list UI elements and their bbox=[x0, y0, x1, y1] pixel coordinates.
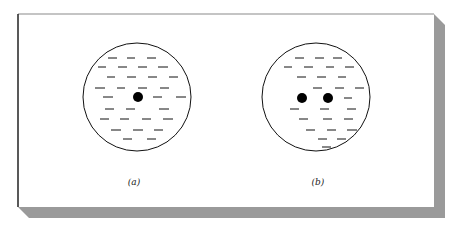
panel-label-a: (a) bbox=[128, 177, 140, 187]
particle-dot bbox=[323, 93, 333, 103]
figure: (a) (b) bbox=[0, 0, 460, 228]
frame-box bbox=[18, 14, 434, 207]
frame bbox=[18, 14, 445, 218]
particle-dot bbox=[133, 92, 143, 102]
diagram-canvas bbox=[0, 0, 460, 228]
panel-label-b: (b) bbox=[312, 177, 325, 187]
particle-dot bbox=[297, 93, 307, 103]
shadow-bottom bbox=[18, 207, 445, 218]
shadow-right bbox=[434, 14, 445, 218]
